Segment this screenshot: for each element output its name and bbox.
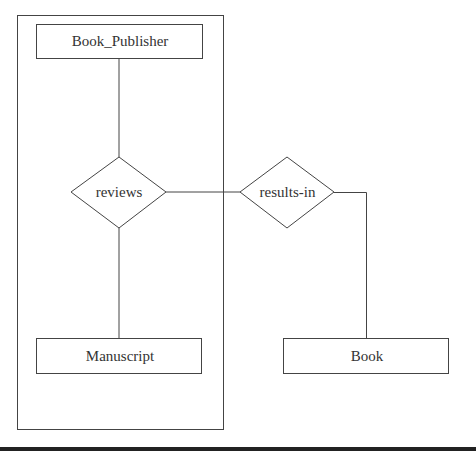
entity-manuscript-label: Manuscript: [37, 349, 203, 364]
entity-book-label: Book: [284, 349, 450, 364]
connector-results-in-book: [334, 193, 367, 339]
relationship-results-in-label: results-in: [240, 185, 335, 200]
bottom-rule: [0, 447, 476, 451]
er-diagram-canvas: [0, 0, 476, 456]
relationship-reviews-label: reviews: [71, 185, 167, 200]
entity-book-publisher-label: Book_Publisher: [37, 34, 203, 49]
